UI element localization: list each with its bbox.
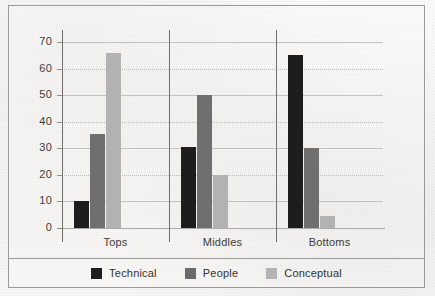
x-axis-category-label: Bottoms: [276, 236, 383, 248]
legend-item-label: Conceptual: [284, 267, 342, 279]
y-axis-tick-label: 10: [18, 194, 52, 206]
legend-item-technical[interactable]: Technical: [91, 267, 157, 279]
bar-middles-people: [197, 95, 212, 228]
y-axis-tick-label: 50: [18, 88, 52, 100]
group-separator-line: [169, 30, 170, 242]
x-axis-category-label: Middles: [169, 236, 276, 248]
legend-swatch-icon: [185, 268, 196, 279]
gridline: [62, 42, 383, 43]
bar-middles-technical: [181, 147, 196, 228]
y-axis-tick-label: 20: [18, 168, 52, 180]
y-axis-tick-label: 30: [18, 141, 52, 153]
group-separator-line: [276, 30, 277, 242]
legend-item-people[interactable]: People: [185, 267, 238, 279]
chart-screenshot: TechnicalPeopleConceptual 70605040302010…: [0, 0, 435, 296]
y-axis-tick-label: 0: [18, 221, 52, 233]
bar-bottoms-technical: [288, 55, 303, 228]
bar-tops-people: [90, 134, 105, 228]
y-axis-tick-label: 40: [18, 115, 52, 127]
legend-item-label: Technical: [109, 267, 157, 279]
legend-swatch-icon: [266, 268, 277, 279]
bar-middles-conceptual: [213, 175, 228, 228]
bar-bottoms-people: [304, 148, 319, 228]
legend-item-label: People: [203, 267, 238, 279]
y-axis-tick-label: 60: [18, 62, 52, 74]
x-axis-category-label: Tops: [62, 236, 169, 248]
bar-tops-conceptual: [106, 53, 121, 228]
legend-swatch-icon: [91, 268, 102, 279]
group-separator-line: [62, 30, 63, 242]
bar-tops-technical: [74, 201, 89, 228]
x-axis-baseline: [58, 228, 385, 229]
legend-item-conceptual[interactable]: Conceptual: [266, 267, 342, 279]
chart-legend: TechnicalPeopleConceptual: [9, 259, 424, 287]
bar-bottoms-conceptual: [320, 216, 335, 228]
plot-area: [62, 42, 383, 228]
y-axis-tick-label: 70: [18, 35, 52, 47]
